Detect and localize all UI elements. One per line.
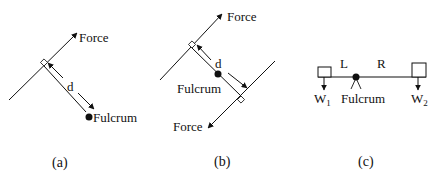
distance-arrow-upper: [48, 63, 63, 78]
fulcrum-label: Fulcrum: [341, 91, 385, 106]
weight-box-right: [412, 63, 426, 77]
right-arm-label: R: [377, 56, 386, 71]
fulcrum-dot: [353, 74, 360, 81]
force-bottom-label: Force: [173, 119, 203, 134]
panel-c: L R W1 Fulcrum W2 (c): [314, 56, 428, 170]
moment-arm-line: [44, 66, 86, 112]
distance-label: d: [67, 79, 74, 94]
right-angle-marker-top: [188, 41, 195, 48]
force-label: Force: [79, 30, 109, 45]
weight-left-label: W1: [314, 91, 331, 108]
distance-arrow-upper: [197, 45, 211, 60]
lever-diagram: Force d Fulcrum (a) Force Force d Fulcru…: [0, 0, 435, 183]
fulcrum-label: Fulcrum: [93, 110, 137, 125]
fulcrum-support-right: [356, 78, 361, 89]
distance-label: d: [215, 56, 222, 71]
fulcrum-dot: [215, 71, 222, 78]
weight-box-left: [318, 67, 331, 77]
fulcrum-support-left: [351, 78, 356, 89]
weight-right-label: W2: [411, 91, 428, 108]
fulcrum-dot: [86, 114, 93, 121]
force-top-label: Force: [227, 9, 257, 24]
caption-b: (b): [214, 154, 231, 170]
right-angle-marker: [40, 59, 47, 66]
panel-a: Force d Fulcrum (a): [9, 30, 137, 171]
caption-c: (c): [358, 154, 374, 170]
caption-a: (a): [52, 155, 68, 171]
fulcrum-label: Fulcrum: [177, 81, 221, 96]
panel-b: Force Force d Fulcrum (b): [160, 9, 275, 170]
left-arm-label: L: [340, 56, 348, 71]
